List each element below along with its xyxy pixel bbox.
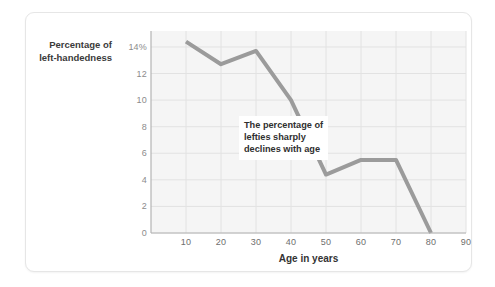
x-axis-tick-label: 60 (356, 237, 366, 247)
x-axis-tick-label: 70 (391, 237, 401, 247)
y-axis-title: Percentage of left-handedness (34, 39, 112, 64)
y-axis-title-line-2: left-handedness (39, 52, 112, 63)
y-axis-tick-label: 8 (142, 122, 147, 132)
y-axis-tick-label: 10 (137, 95, 147, 105)
x-axis-tick-label: 90 (461, 237, 471, 247)
y-axis-tick-label: 2 (142, 201, 147, 211)
y-axis-tick-label: 0 (142, 228, 147, 238)
x-axis-tick-label: 30 (251, 237, 261, 247)
y-axis-tick-label: 14% (128, 42, 147, 52)
y-axis-tick-label: 6 (142, 148, 147, 158)
annotation-line-1: The percentage of (244, 119, 323, 131)
chart-card: Percentage of left-handedness 0246810121… (25, 12, 472, 272)
y-axis-tick-label: 4 (142, 175, 147, 185)
y-axis-tick-label: 12 (137, 69, 147, 79)
annotation-line-3: declines with age (244, 143, 323, 155)
x-axis-tick-label: 10 (181, 237, 191, 247)
x-axis-tick-label: 40 (286, 237, 296, 247)
x-axis-title: Age in years (151, 253, 466, 264)
chart-annotation: The percentage of lefties sharply declin… (239, 116, 328, 160)
y-axis-tick-labels: 02468101214% (114, 31, 147, 233)
x-axis-tick-label: 20 (216, 237, 226, 247)
x-axis-tick-label: 80 (426, 237, 436, 247)
annotation-line-2: lefties sharply (244, 131, 323, 143)
x-axis-tick-label: 50 (321, 237, 331, 247)
y-axis-title-line-1: Percentage of (49, 39, 112, 50)
x-axis-tick-labels: 102030405060708090 (151, 237, 466, 251)
